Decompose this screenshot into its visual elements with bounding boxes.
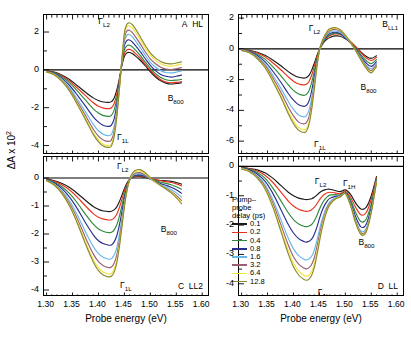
panel-sample-label: LL1 (388, 25, 398, 31)
x-tick-label: 1.40 (284, 299, 301, 309)
panel-identifier-d: D LL (378, 281, 398, 291)
legend-color-swatch (232, 223, 247, 225)
x-tick-label: 1.45 (115, 299, 132, 309)
y-tick-label: -1 (17, 200, 39, 210)
x-tick-label: 1.60 (193, 299, 210, 309)
x-tick-label: 1.55 (362, 299, 379, 309)
data-series-line (47, 49, 182, 108)
legend-color-swatch (232, 264, 247, 266)
legend-color-swatch (232, 240, 247, 242)
panel-identifier-c: C LL2 (178, 281, 203, 291)
x-tick-label: 1.35 (63, 299, 80, 309)
x-tick-label: 1.30 (232, 299, 249, 309)
y-tick-label: -3 (212, 248, 234, 258)
y-tick-label: -4 (17, 284, 39, 294)
y-tick-label: -2 (212, 74, 234, 84)
x-tick-label: 1.45 (310, 299, 327, 309)
y-tick-label: 2 (212, 12, 234, 22)
x-tick-label: 1.50 (336, 299, 353, 309)
y-tick-label: 0 (17, 64, 39, 74)
y-tick-label: 2 (17, 26, 39, 36)
y-axis-title: ΔA x 102 (5, 95, 17, 205)
x-tick-label: 1.50 (141, 299, 158, 309)
legend-item: 12.8 (232, 277, 265, 285)
legend-color-swatch (232, 281, 247, 283)
plot-panel-c: ΓL2Γ1LB800C LL2 (43, 156, 209, 296)
panel-sample-label: LL2 (189, 281, 203, 291)
plot-canvas-b (239, 15, 404, 154)
plot-panel-a: ΓL2Γ1LB800A HL (43, 14, 209, 154)
x-axis-title-right: Probe energy (eV) (280, 313, 362, 324)
x-tick-label: 1.40 (89, 299, 106, 309)
y-tick-label: -4 (212, 278, 234, 288)
y-tick-label: 0 (212, 160, 234, 170)
y-tick-label: -4 (212, 104, 234, 114)
y-tick-label: 0 (17, 172, 39, 182)
data-series-line (47, 173, 182, 268)
panel-sample-label: HL (192, 19, 203, 29)
x-tick-label: 1.35 (258, 299, 275, 309)
legend-color-swatch (232, 256, 247, 258)
panel-sample-label: LL (389, 281, 398, 291)
y-axis-title-text: ΔA x 10 (6, 135, 17, 169)
y-tick-label: -2 (17, 102, 39, 112)
legend-color-swatch (232, 232, 247, 234)
panel-identifier-a: A HL (182, 19, 203, 29)
plot-panel-b: ΓL2Γ1LB800BLL1 (238, 14, 404, 154)
y-tick-label: -3 (17, 256, 39, 266)
figure-root: ΔA x 102 ΓL2Γ1LB800A HLΓL2Γ1LB800BLL1ΓL2… (0, 0, 411, 337)
data-series-line (242, 32, 377, 106)
y-tick-label: -2 (17, 228, 39, 238)
y-tick-label: 0 (212, 43, 234, 53)
y-axis-title-exponent: 2 (5, 131, 12, 135)
y-tick-label: -1 (212, 190, 234, 200)
x-axis-title-left: Probe energy (eV) (85, 313, 167, 324)
y-tick-label: -4 (17, 140, 39, 150)
data-series-line (242, 31, 377, 117)
y-tick-label: -6 (212, 135, 234, 145)
legend-color-swatch (232, 248, 247, 250)
x-tick-label: 1.55 (167, 299, 184, 309)
plot-canvas-c (44, 157, 209, 296)
x-tick-label: 1.60 (388, 299, 405, 309)
panel-identifier-b: BLL1 (382, 19, 398, 31)
x-tick-label: 1.30 (37, 299, 54, 309)
y-tick-label: -2 (212, 219, 234, 229)
plot-canvas-a (44, 15, 209, 154)
legend-rows: 0.10.20.40.81.63.26.412.8 (232, 220, 265, 286)
legend-item-label: 12.8 (250, 278, 265, 286)
legend: Pump– probe delay (ps) 0.10.20.40.81.63.… (232, 196, 265, 286)
legend-color-swatch (232, 273, 247, 275)
data-series-line (47, 40, 182, 127)
